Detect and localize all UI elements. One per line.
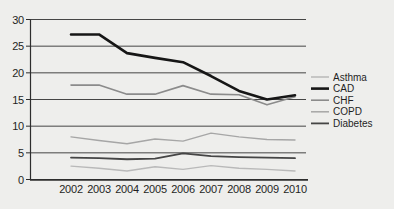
series-line-asthma [71,166,295,171]
y-tick-label-10: 10 [12,120,24,132]
legend-label-diabetes: Diabetes [333,118,372,129]
legend-label-asthma: Asthma [333,72,367,83]
x-tick-label-2002: 2002 [59,183,83,195]
legend-label-cad: CAD [333,83,354,94]
legend-label-chf: CHF [333,95,354,106]
x-tick-label-2010: 2010 [283,183,307,195]
x-tick-label-2007: 2007 [199,183,223,195]
y-tick-label-20: 20 [12,67,24,79]
x-tick-label-2009: 2009 [255,183,279,195]
series-line-cad [71,34,295,99]
x-tick-label-2006: 2006 [171,183,195,195]
y-tick-label-5: 5 [18,147,24,159]
x-tick-label-2004: 2004 [115,183,139,195]
y-tick-label-0: 0 [18,174,24,186]
y-tick-label-15: 15 [12,94,24,106]
y-tick-label-30: 30 [12,14,24,26]
chart-figure: 0510152025302002200320042005200620072008… [0,0,394,209]
y-tick-label-25: 25 [12,40,24,52]
line-chart: 0510152025302002200320042005200620072008… [0,0,394,209]
legend-label-copd: COPD [333,106,362,117]
series-line-diabetes [71,153,295,159]
series-line-chf [71,85,295,105]
x-tick-label-2008: 2008 [227,183,251,195]
x-tick-label-2003: 2003 [87,183,111,195]
x-tick-label-2005: 2005 [143,183,167,195]
series-line-copd [71,133,295,144]
